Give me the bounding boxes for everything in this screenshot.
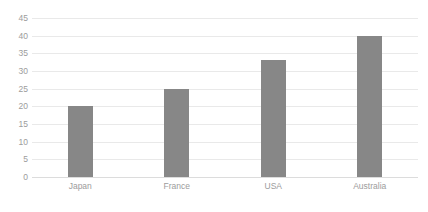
y-axis-tick-label: 15 bbox=[0, 120, 28, 129]
y-axis-tick-label: 10 bbox=[0, 137, 28, 146]
y-axis-tick-label: 30 bbox=[0, 67, 28, 76]
bar bbox=[357, 36, 382, 177]
y-axis-tick-label: 25 bbox=[0, 84, 28, 93]
x-axis-tick-label: France bbox=[129, 181, 225, 191]
y-axis-tick-label: 40 bbox=[0, 31, 28, 40]
x-axis: JapanFranceUSAAustralia bbox=[32, 181, 418, 197]
bar bbox=[68, 106, 93, 177]
y-axis-tick-label: 35 bbox=[0, 49, 28, 58]
bar bbox=[261, 60, 286, 177]
x-axis-tick-label: Japan bbox=[32, 181, 128, 191]
y-axis-tick-label: 0 bbox=[0, 173, 28, 182]
bar-chart-figure: 454035302520151050 JapanFranceUSAAustral… bbox=[0, 0, 428, 212]
y-axis-tick-label: 5 bbox=[0, 155, 28, 164]
chart-title bbox=[0, 0, 428, 3]
y-axis-tick-label: 45 bbox=[0, 14, 28, 23]
bar-series bbox=[32, 18, 418, 177]
y-axis: 454035302520151050 bbox=[0, 18, 28, 177]
bar bbox=[164, 89, 189, 177]
axis-baseline bbox=[32, 177, 418, 178]
x-axis-tick-label: Australia bbox=[322, 181, 418, 191]
y-axis-tick-label: 20 bbox=[0, 102, 28, 111]
x-axis-tick-label: USA bbox=[225, 181, 321, 191]
